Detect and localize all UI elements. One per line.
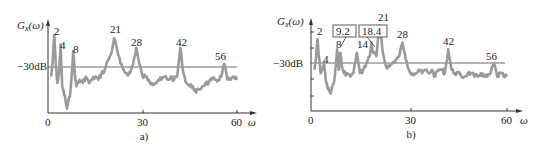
y-axis-arrow-icon (309, 18, 313, 25)
peak-label: 56 (215, 50, 227, 62)
figure: Gx(ω) −30dB 0 30 60 ω a) 2 4 8 21 28 42 … (0, 0, 542, 148)
x-tick-label-30: 30 (137, 116, 149, 128)
peak-label: 21 (378, 11, 389, 23)
x-tick-label-60: 60 (501, 114, 513, 126)
reference-label: −30dB (17, 60, 47, 72)
peak-label: 28 (397, 28, 409, 40)
x-axis-arrow-icon (250, 111, 257, 115)
peak-label: 4 (323, 53, 329, 65)
x-axis-arrow-icon (516, 109, 523, 113)
peak-label: 8 (336, 38, 342, 50)
reference-label: −30dB (273, 57, 303, 69)
peak-label: 42 (176, 36, 187, 48)
x-tick-label-0: 0 (45, 116, 51, 128)
boxed-label: 18.4 (362, 25, 382, 37)
peak-label: 56 (486, 50, 498, 62)
peak-label: 4 (60, 39, 66, 51)
annotation-leader (341, 37, 346, 46)
spectrum-line (51, 35, 237, 109)
peak-label: 2 (317, 25, 323, 37)
peak-label: 28 (131, 36, 143, 48)
x-axis-label: ω (248, 116, 256, 128)
peak-label: 42 (443, 35, 454, 47)
panel-a: Gx(ω) −30dB 0 30 60 ω a) 2 4 8 21 28 42 … (17, 19, 257, 143)
boxed-label: 9.2 (336, 25, 350, 37)
x-axis-label: ω (520, 114, 528, 126)
x-tick-label-60: 60 (231, 116, 243, 128)
panel-caption: b) (406, 128, 416, 141)
panel-b: Gx(ω) −30dB 0 30 60 ω b) 2 4 8 14 21 28 … (273, 11, 528, 141)
y-axis-label: Gx(ω) (277, 15, 304, 29)
peak-label: 2 (54, 25, 60, 37)
x-tick-label-30: 30 (405, 114, 417, 126)
y-axis-label: Gx(ω) (17, 19, 44, 33)
peak-label: 8 (73, 43, 79, 55)
panel-caption: a) (140, 130, 149, 143)
peak-label: 14 (357, 38, 369, 50)
x-tick-label-0: 0 (308, 114, 314, 126)
peak-label: 21 (110, 23, 121, 35)
y-axis-arrow-icon (46, 19, 50, 26)
